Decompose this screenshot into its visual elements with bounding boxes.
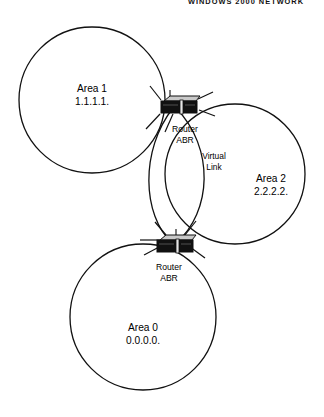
router-abr-top-icon[interactable] <box>161 90 200 114</box>
area-0-label: Area 0 0.0.0.0. <box>72 321 214 347</box>
area-1-name: Area 1 <box>22 82 162 95</box>
router-abr-bottom-label-line2: ABR <box>136 273 202 284</box>
area-1-id: 1.1.1.1. <box>22 95 162 108</box>
router-abr-bottom-label: Router ABR <box>136 262 202 284</box>
area-2-name: Area 2 <box>228 172 314 185</box>
virtual-link-label-line2: Link <box>182 162 246 173</box>
area-0-name: Area 0 <box>72 321 214 334</box>
router-abr-top-label-line2: ABR <box>152 135 218 146</box>
virtual-link-label: Virtual Link <box>182 151 246 173</box>
virtual-link-label-line1: Virtual <box>182 151 246 162</box>
area-2-label: Area 2 2.2.2.2. <box>228 172 314 198</box>
area-1-label: Area 1 1.1.1.1. <box>22 82 162 108</box>
area-2-id: 2.2.2.2. <box>228 185 314 198</box>
router-abr-top-label: Router ABR <box>152 124 218 146</box>
router-abr-top-label-line1: Router <box>152 124 218 135</box>
area-0-id: 0.0.0.0. <box>72 334 214 347</box>
diagram-page: WINDOWS 2000 NETWORK <box>0 0 324 417</box>
network-topology-diagram <box>0 0 324 417</box>
router-abr-bottom-label-line1: Router <box>136 262 202 273</box>
